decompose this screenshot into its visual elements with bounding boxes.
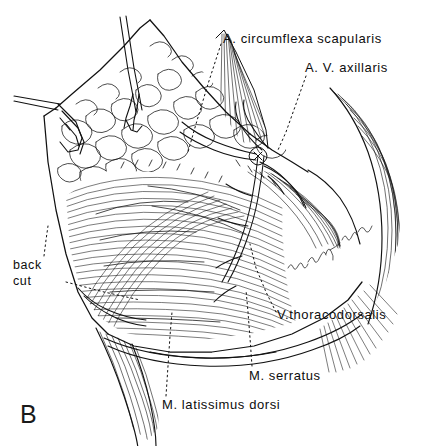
retractor-hook-left — [14, 96, 84, 154]
fat-lobules — [58, 42, 287, 191]
panel-letter-b: B — [20, 400, 37, 429]
label-a-v-axillaris: A. V. axillaris — [305, 60, 388, 76]
label-a-circumflexa-scapularis: A. circumflexa scapularis — [223, 31, 382, 47]
leader-back-cut-upper — [44, 226, 48, 256]
label-m-serratus: M. serratus — [249, 368, 321, 384]
retractor-hook-apex — [120, 16, 142, 132]
axillary-border-fan — [334, 92, 400, 310]
serratus-digitations — [248, 168, 340, 248]
latissimus-muscle-fibers — [62, 177, 296, 351]
leader-axillaris — [278, 76, 306, 150]
label-v-thoracodorsalis: V.thoracodorsalis — [277, 307, 386, 323]
lower-right-hatching — [320, 285, 397, 372]
leader-latissimus — [166, 312, 172, 396]
anatomical-figure-panel: A. circumflexa scapularis A. V. axillari… — [0, 0, 429, 446]
fascia-fan-top — [220, 34, 268, 150]
border-tick-marks — [121, 160, 276, 186]
label-m-latissimus-dorsi: M. latissimus dorsi — [162, 397, 280, 413]
label-back-cut: back cut — [13, 258, 42, 289]
label-back-cut-line2: cut — [13, 274, 42, 290]
label-back-cut-line1: back — [13, 258, 42, 274]
back-cut-edge — [78, 288, 146, 326]
